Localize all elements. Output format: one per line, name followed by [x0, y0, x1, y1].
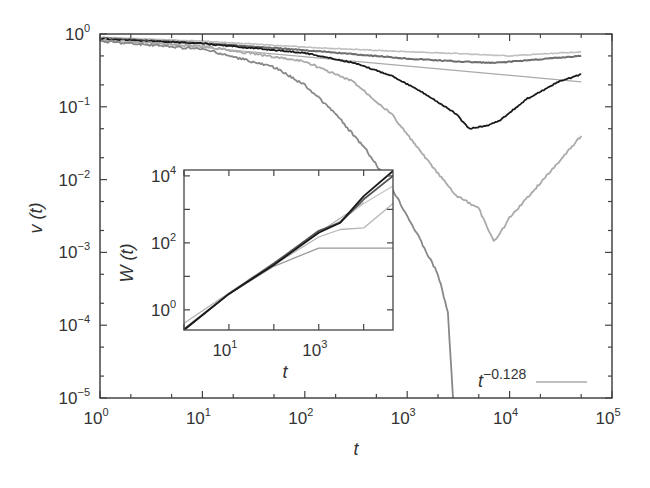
y-tick-label: 100 — [65, 22, 90, 44]
inset-x-axis-label: t — [282, 362, 288, 382]
inset-background — [184, 170, 393, 330]
inset-y-tick-labels: 100102104 — [151, 164, 176, 320]
y-tick-label: 10−3 — [59, 240, 90, 262]
legend-label: t−0.128 — [478, 366, 526, 391]
y-tick-label: 102 — [151, 231, 176, 253]
x-tick-label: 102 — [288, 406, 313, 428]
x-tick-label: 103 — [302, 338, 327, 360]
x-tick-label: 104 — [493, 406, 518, 428]
main-x-axis-label: t — [353, 439, 359, 459]
x-tick-label: 101 — [186, 406, 211, 428]
main-y-axis-label: v (t) — [26, 203, 46, 234]
y-tick-label: 100 — [151, 298, 176, 320]
legend: t−0.128 — [478, 366, 587, 391]
inset-x-tick-labels: 101103 — [212, 338, 327, 360]
y-tick-label: 10−4 — [59, 313, 90, 335]
x-tick-label: 103 — [391, 406, 416, 428]
inset-plot: 101103 100102104 t W (t) — [117, 164, 393, 382]
y-tick-label: 104 — [151, 164, 176, 186]
x-tick-label: 105 — [595, 406, 620, 428]
x-tick-label: 101 — [212, 338, 237, 360]
legend-label-exponent: −0.128 — [483, 366, 526, 382]
y-tick-label: 10−1 — [59, 95, 90, 117]
chart-figure: 100101102103104105 10010−110−210−310−410… — [0, 0, 650, 488]
y-tick-label: 10−2 — [59, 168, 90, 190]
main-x-tick-labels: 100101102103104105 — [83, 406, 620, 428]
main-y-tick-labels: 10010−110−210−310−410−5 — [59, 22, 90, 408]
y-tick-label: 10−5 — [59, 386, 90, 408]
x-tick-label: 100 — [83, 406, 108, 428]
inset-y-axis-label: W (t) — [117, 244, 137, 283]
